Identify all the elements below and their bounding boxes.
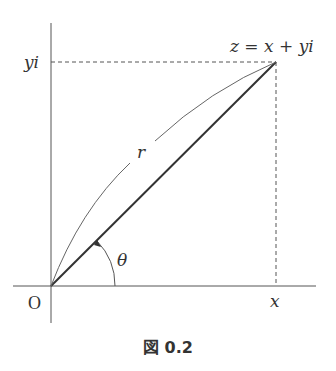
x-tick-label: x xyxy=(270,291,280,311)
figure-caption: 図 0.2 xyxy=(0,334,336,358)
radius-label: r xyxy=(137,142,146,162)
point-label: z = x + yi xyxy=(229,36,314,56)
origin-label: O xyxy=(28,293,41,313)
angle-label: θ xyxy=(117,250,127,270)
y-tick-label: yi xyxy=(23,52,39,72)
vector-line xyxy=(51,62,276,286)
radius-arc-upper xyxy=(155,62,276,141)
complex-plane-diagram: z = x + yi yi x O r θ xyxy=(0,0,336,371)
angle-arc xyxy=(97,241,115,286)
